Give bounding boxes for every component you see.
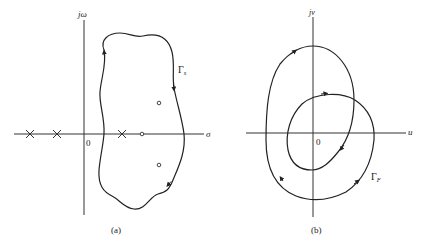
zero-circle-icon xyxy=(140,132,144,136)
a-gamma-label: Γs xyxy=(178,64,187,76)
contour-gamma-f-outer xyxy=(266,46,374,199)
zero-circle-icon xyxy=(157,163,161,167)
a-caption: (a) xyxy=(111,225,121,235)
a-jomega-label: jω xyxy=(77,9,87,19)
b-origin-label: 0 xyxy=(316,137,321,147)
panel-b: jv u 0 ΓF (b) xyxy=(246,8,413,235)
b-u-label: u xyxy=(408,127,413,137)
a-sigma-label: σ xyxy=(206,129,211,139)
contour-gamma-s xyxy=(99,33,184,209)
figure: jω σ 0 Γs (a) j xyxy=(0,0,425,241)
a-origin-label: 0 xyxy=(86,138,91,148)
b-caption: (b) xyxy=(311,225,322,235)
b-jv-label: jv xyxy=(308,8,315,17)
b-gamma-label: ΓF xyxy=(371,171,382,183)
arrow-right-icon xyxy=(321,94,326,95)
panel-a: jω σ 0 Γs (a) xyxy=(14,9,211,235)
zero-circle-icon xyxy=(157,101,161,105)
arrow-up-left-outer-icon xyxy=(281,178,283,181)
